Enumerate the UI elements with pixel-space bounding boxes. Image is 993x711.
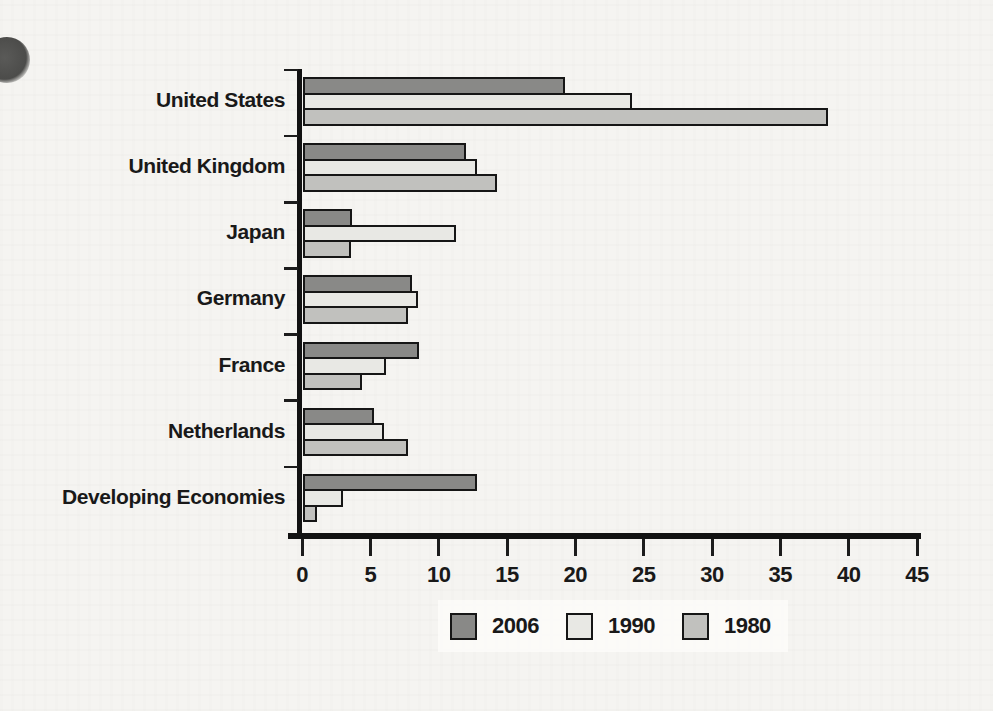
legend-swatch-1980 (682, 613, 709, 640)
category-tick (284, 466, 298, 469)
x-axis-tick-label: 35 (756, 562, 804, 588)
x-axis-tick (574, 539, 577, 556)
bar (303, 306, 408, 324)
category-label: United States (30, 87, 285, 113)
category-tick (284, 135, 298, 138)
x-axis-tick (916, 539, 919, 556)
x-axis-tick (847, 539, 850, 556)
category-label: Developing Economies (30, 484, 285, 510)
category-tick (284, 201, 298, 204)
legend-label: 1990 (608, 613, 655, 639)
x-axis-tick (711, 539, 714, 556)
bar (303, 240, 351, 258)
x-axis-tick (642, 539, 645, 556)
bar (303, 373, 362, 391)
legend-item: 1990 (566, 613, 655, 640)
category-tick (284, 399, 298, 402)
legend-item: 2006 (450, 613, 539, 640)
chart-legend: 200619901980 (438, 600, 788, 652)
x-axis-tick (506, 539, 509, 556)
x-axis-tick-label: 15 (483, 562, 531, 588)
x-axis-tick (779, 539, 782, 556)
legend-label: 1980 (724, 613, 771, 639)
x-axis-line (288, 533, 921, 539)
x-axis-tick-label: 30 (688, 562, 736, 588)
x-axis-tick (301, 539, 304, 556)
category-label: Netherlands (30, 418, 285, 444)
category-label: United Kingdom (30, 153, 285, 179)
x-axis-tick (369, 539, 372, 556)
category-label: France (30, 352, 285, 378)
x-axis-tick-label: 45 (893, 562, 941, 588)
bar-chart: United StatesUnited KingdomJapanGermanyF… (0, 0, 993, 711)
x-axis-tick-label: 10 (415, 562, 463, 588)
bar (303, 439, 408, 457)
x-axis-tick-label: 40 (825, 562, 873, 588)
bar (303, 505, 317, 523)
legend-swatch-1990 (566, 613, 593, 640)
x-axis-tick-label: 20 (551, 562, 599, 588)
scanned-page: United StatesUnited KingdomJapanGermanyF… (0, 0, 993, 711)
x-axis-tick-label: 0 (278, 562, 326, 588)
bar (303, 174, 497, 192)
legend-swatch-2006 (450, 613, 477, 640)
category-tick (284, 267, 298, 270)
category-label: Germany (30, 285, 285, 311)
category-tick (284, 333, 298, 336)
x-axis-tick (437, 539, 440, 556)
legend-item: 1980 (682, 613, 771, 640)
x-axis-tick-label: 5 (346, 562, 394, 588)
bar (303, 108, 828, 126)
x-axis-tick-label: 25 (620, 562, 668, 588)
category-label: Japan (30, 219, 285, 245)
legend-label: 2006 (492, 613, 539, 639)
category-tick (284, 69, 298, 72)
